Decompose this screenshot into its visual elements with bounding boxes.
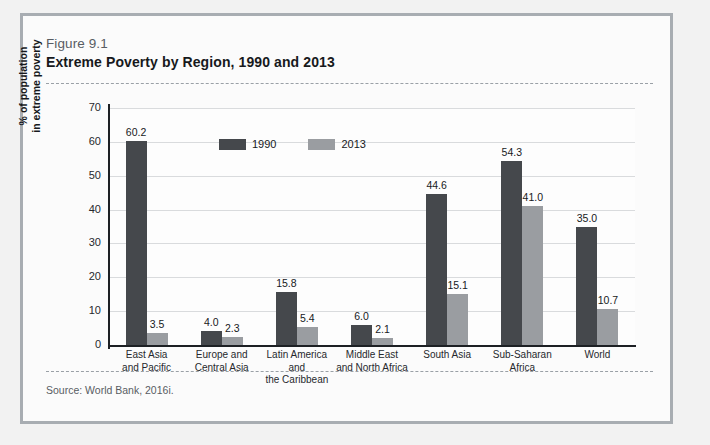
y-tick-label: 60 xyxy=(71,135,101,147)
gridline xyxy=(109,176,635,177)
x-category-label: Sub-SaharanAfrica xyxy=(485,349,560,374)
y-tick-label: 20 xyxy=(71,270,101,282)
bar-value-label: 10.7 xyxy=(588,294,628,306)
x-category-label: Europe andCentral Asia xyxy=(184,349,259,374)
bar-value-label: 2.1 xyxy=(363,323,403,335)
legend-swatch-2013-icon xyxy=(308,139,335,150)
legend-label-1990: 1990 xyxy=(252,138,276,150)
legend-swatch-1990-icon xyxy=(219,139,246,150)
gridline xyxy=(109,108,635,109)
x-category-label: World xyxy=(560,349,635,362)
bar-2013-sub-saharan-africa xyxy=(522,206,543,345)
bar-2013-latin-america-and-the-caribbean xyxy=(297,327,318,345)
y-tick-label: 40 xyxy=(71,203,101,215)
y-axis-title-line1: % of population xyxy=(17,47,29,126)
chart-legend: 1990 2013 xyxy=(219,138,366,150)
source-note: Source: World Bank, 2016i. xyxy=(46,384,174,396)
figure-frame: Figure 9.1 Extreme Poverty by Region, 19… xyxy=(20,13,673,424)
figure-title: Extreme Poverty by Region, 1990 and 2013 xyxy=(46,54,335,70)
gridline xyxy=(109,243,635,244)
bar-2013-south-asia xyxy=(447,294,468,345)
bar-1990-sub-saharan-africa xyxy=(501,161,522,345)
legend-label-2013: 2013 xyxy=(341,138,365,150)
x-category-label: Middle Eastand North Africa xyxy=(334,349,409,374)
legend-item-1990: 1990 xyxy=(219,138,276,150)
bar-value-label: 41.0 xyxy=(513,191,553,203)
y-axis-line xyxy=(108,104,110,349)
bar-value-label: 60.2 xyxy=(116,126,156,138)
bar-value-label: 2.3 xyxy=(212,322,252,334)
x-category-label: South Asia xyxy=(410,349,485,362)
bar-2013-middle-east-and-north-africa xyxy=(372,338,393,345)
y-axis-title-line2: in extreme poverty xyxy=(30,39,42,132)
gridline xyxy=(109,277,635,278)
bar-value-label: 35.0 xyxy=(567,212,607,224)
x-category-label: East Asiaand Pacific xyxy=(109,349,184,374)
gridline xyxy=(109,142,635,143)
x-category-label: Latin America andthe Caribbean xyxy=(259,349,334,387)
bar-value-label: 15.8 xyxy=(266,277,306,289)
y-tick-label: 70 xyxy=(71,101,101,113)
y-tick-label: 30 xyxy=(71,236,101,248)
bar-value-label: 44.6 xyxy=(417,179,457,191)
x-axis-line xyxy=(108,345,636,347)
y-tick-label: 10 xyxy=(71,304,101,316)
bar-2013-europe-and-central-asia xyxy=(222,337,243,345)
bar-1990-east-asia-and-pacific xyxy=(126,141,147,345)
bar-1990-world xyxy=(576,227,597,346)
gridline xyxy=(109,210,635,211)
figure-number: Figure 9.1 xyxy=(46,36,108,51)
bar-1990-south-asia xyxy=(426,194,447,345)
legend-item-2013: 2013 xyxy=(308,138,365,150)
bar-2013-east-asia-and-pacific xyxy=(147,333,168,345)
bar-value-label: 6.0 xyxy=(342,310,382,322)
bar-value-label: 54.3 xyxy=(492,146,532,158)
y-axis-title: % of population in extreme poverty xyxy=(17,6,42,166)
y-tick-label: 0 xyxy=(71,338,101,350)
bar-value-label: 15.1 xyxy=(438,279,478,291)
bar-2013-world xyxy=(597,309,618,345)
y-tick-label: 50 xyxy=(71,169,101,181)
dashed-rule-top xyxy=(46,83,653,84)
bar-value-label: 5.4 xyxy=(287,312,327,324)
bar-value-label: 3.5 xyxy=(137,318,177,330)
